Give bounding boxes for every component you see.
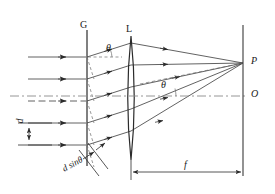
focal-length-label: f: [184, 160, 187, 170]
focused-ray-4: [131, 63, 243, 109]
focused-ray-1: [131, 43, 243, 63]
axis-point-label: O: [251, 89, 258, 99]
focused-ray-3: [131, 63, 243, 87]
angle-reference-line-axis: [140, 63, 243, 96]
diagram-canvas: [0, 0, 275, 194]
focal-point-label: P: [251, 56, 257, 66]
diffraction-angle-label-top: θ: [106, 43, 111, 53]
optics-diagram: G L P O θ θ f d d sinθ: [0, 0, 275, 194]
focused-ray-arrowheads: [155, 48, 180, 122]
diffraction-angle-label-axis: θ: [161, 80, 166, 90]
focused-ray-5: [131, 63, 243, 131]
grating-label: G: [80, 20, 87, 30]
slit-spacing-dimension: [18, 123, 52, 145]
lens-label: L: [126, 24, 132, 34]
lens-body: [128, 36, 135, 160]
slit-spacing-label: d: [15, 119, 25, 124]
incident-ray-arrowheads: [58, 57, 66, 145]
path-difference-dimension: [79, 143, 108, 176]
path-difference-marks: [87, 57, 94, 167]
focused-ray-2: [131, 63, 243, 65]
diffracted-ray-arrowheads: [104, 49, 112, 140]
incident-rays: [28, 57, 86, 145]
